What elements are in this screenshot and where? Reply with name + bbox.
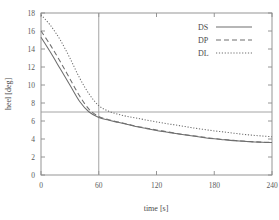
x-tick-label: 180 <box>209 181 221 190</box>
x-tick-label: 240 <box>266 181 278 190</box>
y-tick-label: 12 <box>28 63 36 72</box>
legend-label-dl: DL <box>198 49 209 58</box>
x-tick-label: 120 <box>151 181 163 190</box>
y-tick-label: 8 <box>31 99 35 108</box>
series-line-dp <box>41 31 272 142</box>
y-tick-labels: 024681012141618 <box>28 9 36 180</box>
line-chart: 060120180240 024681012141618 DSDPDL time… <box>0 0 279 220</box>
y-axis-title: heel [deg] <box>4 78 13 111</box>
x-tick-label: 0 <box>39 181 43 190</box>
x-tick-labels: 060120180240 <box>39 181 278 190</box>
plot-frame <box>41 13 272 175</box>
y-tick-label: 16 <box>28 27 36 36</box>
y-tick-label: 10 <box>28 81 36 90</box>
data-series-group <box>41 15 272 143</box>
chart-figure: 060120180240 024681012141618 DSDPDL time… <box>0 0 279 220</box>
series-line-dl <box>41 15 272 137</box>
y-tick-label: 2 <box>31 153 35 162</box>
axis-ticks <box>41 13 272 175</box>
chart-legend: DSDPDL <box>198 23 252 58</box>
legend-label-dp: DP <box>198 36 209 45</box>
reference-lines <box>41 13 272 175</box>
x-axis-title: time [s] <box>144 204 169 213</box>
y-tick-label: 4 <box>31 135 35 144</box>
legend-label-ds: DS <box>198 23 208 32</box>
x-tick-label: 60 <box>95 181 103 190</box>
y-tick-label: 6 <box>31 117 35 126</box>
y-tick-label: 14 <box>28 45 36 54</box>
y-tick-label: 0 <box>31 171 35 180</box>
y-tick-label: 18 <box>28 9 36 18</box>
